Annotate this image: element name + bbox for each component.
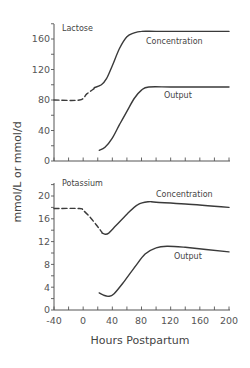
y-tick-label: 8 <box>44 259 50 270</box>
x-tick-label: 200 <box>220 315 238 326</box>
potassium-x-ticks <box>54 307 229 311</box>
lactose-concentration-label: Concentration <box>146 37 203 46</box>
y-tick-label: 80 <box>38 94 50 105</box>
y-tick-label: 0 <box>44 155 50 166</box>
lactose-panel-title: Lactose <box>62 24 93 33</box>
potassium-y-tick-labels: 0 4 8 12 16 20 <box>38 190 50 315</box>
x-tick-labels: -40 0 40 80 120 160 200 <box>46 315 238 326</box>
chart-figure: 0 40 80 120 160 Lactose Concentration Ou… <box>0 0 250 368</box>
x-tick-label: -40 <box>46 315 62 326</box>
potassium-concentration-dashed-line <box>54 208 102 232</box>
potassium-concentration-label: Concentration <box>156 190 213 199</box>
x-tick-label: 80 <box>135 315 147 326</box>
y-tick-label: 16 <box>38 213 50 224</box>
lactose-curves <box>54 31 229 150</box>
potassium-output-solid-line <box>99 246 229 296</box>
x-tick-label: 40 <box>106 315 118 326</box>
lactose-y-tick-labels: 0 40 80 120 160 <box>32 33 50 166</box>
y-tick-label: 40 <box>38 125 50 136</box>
y-tick-label: 120 <box>32 64 50 75</box>
potassium-panel: 0 4 8 12 16 20 -40 0 40 80 120 160 200 P… <box>38 179 238 326</box>
lactose-concentration-dashed-line <box>54 89 94 101</box>
y-tick-label: 0 <box>44 304 50 315</box>
lactose-output-label: Output <box>164 91 192 100</box>
lactose-x-ticks <box>54 158 229 162</box>
x-tick-label: 120 <box>161 315 179 326</box>
y-tick-label: 20 <box>38 190 50 201</box>
y-tick-label: 12 <box>38 236 50 247</box>
potassium-output-label: Output <box>174 252 202 261</box>
potassium-panel-title: Potassium <box>62 179 103 188</box>
potassium-concentration-solid-line <box>102 202 229 235</box>
potassium-curves <box>54 202 229 297</box>
y-axis-title: mmol/L or mmol/d <box>11 121 24 222</box>
x-tick-label: 0 <box>80 315 86 326</box>
x-tick-label: 160 <box>191 315 209 326</box>
lactose-panel: 0 40 80 120 160 Lactose Concentration Ou… <box>32 24 230 166</box>
y-tick-label: 160 <box>32 33 50 44</box>
x-axis-title: Hours Postpartum <box>91 334 190 347</box>
y-tick-label: 4 <box>44 282 50 293</box>
